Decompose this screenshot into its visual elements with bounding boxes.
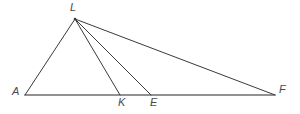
vertex-label-A: A	[12, 86, 19, 97]
vertex-label-K: K	[118, 97, 125, 108]
vertex-label-L: L	[70, 2, 76, 13]
vertex-point-L	[74, 18, 77, 21]
segment-side-LA	[25, 19, 75, 95]
segment-side-LF	[75, 19, 275, 95]
vertex-label-F: F	[279, 84, 286, 95]
vertex-label-E: E	[150, 97, 157, 108]
geometry-figure: L A K E F	[0, 0, 300, 114]
